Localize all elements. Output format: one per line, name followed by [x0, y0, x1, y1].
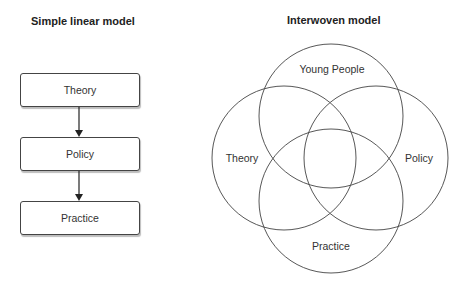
interwoven-venn-diagram: Young People Theory Policy Practice — [0, 0, 464, 288]
theory-circle-label: Theory — [226, 152, 259, 164]
young-people-label: Young People — [299, 63, 364, 75]
policy-circle-label: Policy — [405, 152, 434, 164]
practice-circle-label: Practice — [312, 240, 350, 252]
